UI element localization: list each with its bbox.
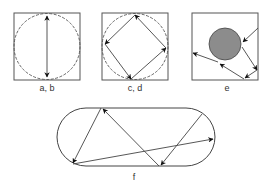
- panel-label-ab: a, b: [39, 83, 54, 93]
- stadium-boundary: [57, 108, 215, 166]
- trajectory-arrow: [242, 47, 257, 70]
- trajectory-arrow: [105, 44, 131, 79]
- circular-obstacle: [209, 28, 241, 60]
- panel-label-f: f: [133, 172, 136, 182]
- trajectory-arrow: [105, 15, 135, 44]
- inscribed-circle: [102, 14, 168, 80]
- trajectory-arrow: [161, 114, 202, 165]
- panel-f: f: [57, 108, 215, 182]
- trajectory-arrow: [73, 139, 213, 164]
- trajectory-arrow: [135, 15, 166, 48]
- panel-label-e: e: [224, 83, 229, 93]
- panel-ab: a, b: [14, 13, 80, 93]
- panel-e: e: [192, 13, 258, 93]
- billiard-diagram: a, b c, d e f: [0, 0, 270, 186]
- panel-label-cd: c, d: [128, 83, 143, 93]
- trajectory-arrow: [245, 70, 257, 78]
- panel-cd: c, d: [102, 13, 168, 93]
- trajectory-arrow: [220, 64, 244, 79]
- trajectory-arrow: [73, 108, 101, 163]
- incoming-trajectory-arrow: [243, 28, 258, 42]
- trajectory-arrow: [131, 48, 166, 79]
